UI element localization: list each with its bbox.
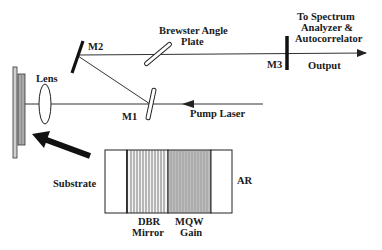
pump-label: Pump Laser xyxy=(190,108,245,119)
ar-label: AR xyxy=(237,175,253,186)
mqw-label-line1: MQW xyxy=(175,216,204,227)
output-label: Output xyxy=(308,60,341,71)
destination-line3: Autocorrelator xyxy=(295,33,363,44)
mqw-layer xyxy=(168,150,211,213)
destination-line2: Analyzer & xyxy=(301,22,353,33)
mqw-label-line2: Gain xyxy=(180,227,202,238)
brewster-label-line1: Brewster Angle xyxy=(159,25,228,36)
substrate-label: Substrate xyxy=(53,178,97,189)
m3-label: M3 xyxy=(267,59,282,70)
dbr-layer xyxy=(127,150,168,213)
device-mount xyxy=(13,67,17,158)
dbr-label-line2: Mirror xyxy=(132,227,164,238)
zoom-pointer-arrow xyxy=(32,131,90,156)
brewster-label-line2: Plate xyxy=(181,36,204,47)
dbr-label-line1: DBR xyxy=(138,216,161,227)
diagonal-beam xyxy=(78,56,150,104)
destination-line1: To Spectrum xyxy=(297,11,355,22)
lens xyxy=(39,84,51,124)
m1-label: M1 xyxy=(122,111,137,122)
optical-setup-diagram: M2 Brewster Angle Plate M3 To Spectrum A… xyxy=(0,0,382,250)
m2-label: M2 xyxy=(88,41,103,52)
layer-structure xyxy=(105,150,232,213)
top-beam xyxy=(78,53,366,55)
m2-mirror xyxy=(72,41,83,73)
pump-arrow-icon xyxy=(182,100,194,108)
lens-label: Lens xyxy=(36,73,58,84)
ar-layer xyxy=(211,150,232,213)
substrate-layer xyxy=(105,150,127,213)
